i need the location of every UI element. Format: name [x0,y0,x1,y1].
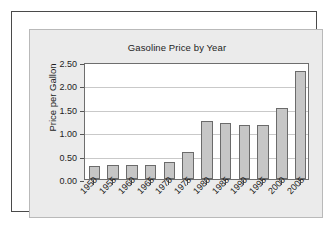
x-axis-labels: 1950195519601965197019751980198519901995… [84,180,309,218]
y-tick-label: 1.00 [59,129,77,139]
y-tick-mark [80,87,84,88]
y-tick-mark [80,111,84,112]
y-axis-title: Price per Gallon [47,43,58,153]
figure-outer-frame: Gasoline Price by Year Price per Gallon … [11,11,317,212]
y-tick-mark [80,158,84,159]
chart-title: Gasoline Price by Year [30,42,324,53]
y-tick-label: 0.50 [59,153,77,163]
y-tick-mark [80,134,84,135]
bar-1990 [239,125,251,179]
bar-1995 [257,125,269,179]
figure-root: Gasoline Price by Year Price per Gallon … [0,0,330,225]
plot-area: 0.000.501.001.502.002.50 [84,63,309,180]
bars-layer [85,64,308,179]
y-tick-label: 2.50 [59,59,77,69]
bar-1985 [220,123,232,179]
bar-2000 [276,108,288,179]
y-tick-label: 1.50 [59,106,77,116]
bar-2005 [295,71,307,179]
bar-1980 [201,121,213,180]
chart-panel: Gasoline Price by Year Price per Gallon … [29,29,323,218]
y-tick-label: 0.00 [59,176,77,186]
y-tick-mark [80,64,84,65]
y-tick-label: 2.00 [59,82,77,92]
